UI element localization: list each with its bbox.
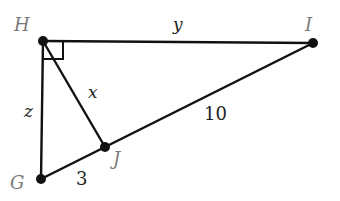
segment-HG: [41, 41, 43, 179]
point-I: [308, 38, 318, 48]
label-G: G: [10, 172, 24, 193]
label-JI: 10: [204, 103, 227, 124]
label-H: H: [13, 14, 30, 35]
label-J: J: [109, 148, 122, 169]
point-H: [38, 36, 48, 46]
label-GJ: 3: [76, 168, 87, 189]
segment-HI: [43, 41, 313, 43]
triangle-diagram: H I G J y z x 3 10: [0, 0, 340, 201]
point-G: [36, 174, 46, 184]
label-y: y: [172, 14, 183, 34]
point-J: [100, 142, 110, 152]
segment-GI: [41, 43, 313, 179]
label-z: z: [23, 101, 34, 121]
label-x: x: [88, 82, 98, 102]
label-I: I: [304, 14, 313, 35]
